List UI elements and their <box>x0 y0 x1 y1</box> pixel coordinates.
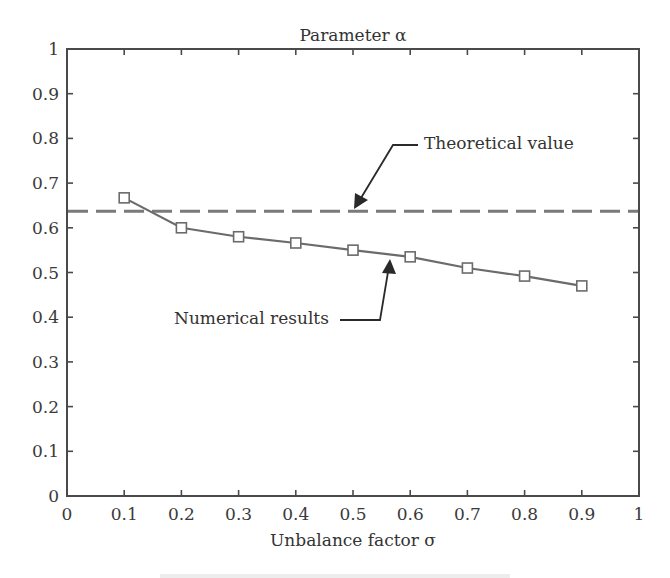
x-tick-label: 0.9 <box>568 504 595 524</box>
y-tick-label: 0.4 <box>32 307 59 327</box>
theoretical-leader-line <box>361 145 418 198</box>
annotation-numerical: Numerical results <box>174 259 396 328</box>
y-tick-label: 0.6 <box>32 218 59 238</box>
y-tick-label: 0.9 <box>32 84 59 104</box>
y-tick-label: 0.5 <box>32 263 59 283</box>
y-tick-label: 0.1 <box>32 441 59 461</box>
y-tick-label: 0.8 <box>32 128 59 148</box>
chart-title: Parameter α <box>299 25 407 45</box>
x-tick-label: 0.3 <box>225 504 252 524</box>
y-tick-label: 1 <box>48 39 59 59</box>
x-axis-label: Unbalance factor σ <box>270 530 436 550</box>
square-marker-icon <box>234 232 244 242</box>
theoretical-value-label: Theoretical value <box>424 133 574 153</box>
square-marker-icon <box>462 263 472 273</box>
square-marker-icon <box>119 193 129 203</box>
x-tick-label: 0.2 <box>168 504 195 524</box>
square-marker-icon <box>176 223 186 233</box>
y-tick-labels: 00.10.20.30.40.50.60.70.80.91 <box>32 39 59 506</box>
chart: Parameter α 00.10.20.30.40.50.60.70.80.9… <box>0 0 670 578</box>
x-tick-labels: 00.10.20.30.40.50.60.70.80.91 <box>62 504 645 524</box>
square-marker-icon <box>577 281 587 291</box>
x-tick-label: 0.1 <box>111 504 138 524</box>
numerical-leader-line <box>340 272 388 320</box>
x-tick-label: 0 <box>62 504 73 524</box>
y-tick-label: 0 <box>48 486 59 506</box>
cropped-caption-remnant <box>160 574 510 578</box>
numerical-results-markers <box>119 193 587 291</box>
x-tick-label: 0.8 <box>511 504 538 524</box>
x-tick-label: 0.7 <box>454 504 481 524</box>
square-marker-icon <box>520 271 530 281</box>
y-tick-label: 0.2 <box>32 397 59 417</box>
y-tick-label: 0.7 <box>32 173 59 193</box>
x-tick-label: 0.6 <box>397 504 424 524</box>
x-tick-label: 1 <box>634 504 645 524</box>
plot-frame <box>67 49 639 496</box>
arrowhead-icon <box>354 193 368 209</box>
square-marker-icon <box>405 252 415 262</box>
annotation-theoretical: Theoretical value <box>354 133 574 209</box>
arrowhead-icon <box>382 259 396 274</box>
square-marker-icon <box>291 238 301 248</box>
x-tick-label: 0.4 <box>282 504 309 524</box>
numerical-results-label: Numerical results <box>174 308 329 328</box>
square-marker-icon <box>348 245 358 255</box>
x-tick-label: 0.5 <box>339 504 366 524</box>
y-tick-label: 0.3 <box>32 352 59 372</box>
axis-ticks <box>67 49 639 496</box>
